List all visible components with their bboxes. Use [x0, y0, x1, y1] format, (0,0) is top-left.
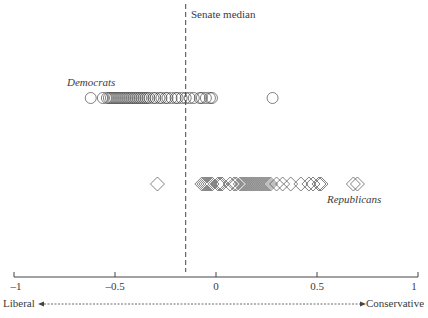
democrats-label: Democrats	[67, 76, 115, 88]
democrats-points	[85, 93, 278, 104]
x-tick-label: 0.5	[307, 280, 327, 292]
republicans-label: Republicans	[327, 193, 381, 205]
liberal-label: Liberal	[3, 297, 35, 309]
x-tick-label: –1	[6, 280, 26, 292]
liberal-conservative-arrow	[38, 302, 366, 307]
senate-median-label: Senate median	[191, 8, 255, 20]
ideology-scatter-chart	[0, 0, 428, 318]
conservative-label: Conservative	[366, 297, 424, 309]
x-tick-label: –0.5	[105, 280, 125, 292]
republicans-points	[150, 177, 364, 191]
x-tick-label: 1	[404, 280, 424, 292]
x-axis	[14, 272, 418, 277]
x-tick-label: 0	[206, 280, 226, 292]
